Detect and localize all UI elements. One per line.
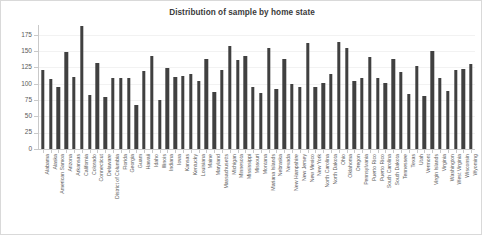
- bar[interactable]: [329, 74, 332, 150]
- bar[interactable]: [80, 26, 83, 150]
- bar[interactable]: [321, 83, 324, 150]
- bar[interactable]: [360, 78, 363, 150]
- bar[interactable]: [454, 70, 457, 150]
- bar[interactable]: [41, 70, 44, 150]
- x-axis-tick: [385, 150, 386, 153]
- bar[interactable]: [220, 70, 223, 150]
- bar[interactable]: [72, 77, 75, 150]
- bar[interactable]: [415, 66, 418, 150]
- bar-slot: [171, 25, 179, 150]
- bar[interactable]: [275, 89, 278, 150]
- x-axis-tick: [339, 150, 340, 153]
- bar-slot: [125, 25, 133, 150]
- x-axis-tick: [160, 150, 161, 153]
- bar-slot: [249, 25, 257, 150]
- y-axis-tick-label: 150: [2, 48, 32, 55]
- bar[interactable]: [384, 83, 387, 150]
- bar[interactable]: [212, 92, 215, 150]
- x-axis-tick: [463, 150, 464, 153]
- bar-slot: [389, 25, 397, 150]
- bar[interactable]: [189, 74, 192, 150]
- bar[interactable]: [181, 76, 184, 150]
- bar[interactable]: [228, 46, 231, 150]
- y-axis-tick: [34, 149, 38, 150]
- bar[interactable]: [314, 87, 317, 150]
- x-axis-tick: [432, 150, 433, 153]
- bar[interactable]: [57, 87, 60, 150]
- bar[interactable]: [306, 43, 309, 150]
- bar[interactable]: [267, 48, 270, 150]
- bar[interactable]: [150, 56, 153, 150]
- bar[interactable]: [298, 87, 301, 150]
- bar[interactable]: [135, 105, 138, 150]
- bar-slot: [327, 25, 335, 150]
- bar[interactable]: [283, 59, 286, 150]
- bar[interactable]: [174, 77, 177, 150]
- bar[interactable]: [96, 63, 99, 150]
- bar[interactable]: [259, 93, 262, 150]
- bar[interactable]: [103, 97, 106, 150]
- bar[interactable]: [111, 78, 114, 150]
- bar[interactable]: [376, 78, 379, 150]
- y-axis-tick-label: 125: [2, 64, 32, 71]
- x-axis-tick-label: New Jersey: [302, 154, 307, 181]
- x-axis-tick-label: Mississippi: [247, 154, 252, 179]
- bar[interactable]: [392, 59, 395, 150]
- bar[interactable]: [244, 56, 247, 150]
- bar[interactable]: [127, 78, 130, 150]
- x-axis-tick-label: Connecticut: [99, 154, 104, 181]
- bar[interactable]: [142, 71, 145, 150]
- x-axis-tick-label: Ohio: [341, 154, 346, 165]
- bar-slot: [109, 25, 117, 150]
- bar[interactable]: [345, 48, 348, 150]
- bar[interactable]: [353, 81, 356, 150]
- bar-slot: [265, 25, 273, 150]
- x-axis-tick: [261, 150, 262, 153]
- bar[interactable]: [251, 87, 254, 150]
- x-axis-tick-label: Alabama: [45, 154, 50, 174]
- x-axis-tick: [331, 150, 332, 153]
- x-axis-tick-label: Nebraska: [278, 154, 283, 176]
- bar[interactable]: [337, 42, 340, 150]
- bar[interactable]: [469, 64, 472, 150]
- y-axis-tick: [34, 116, 38, 117]
- x-axis-tick: [347, 150, 348, 153]
- bar[interactable]: [205, 59, 208, 150]
- bar[interactable]: [65, 52, 68, 150]
- bar-slot: [350, 25, 358, 150]
- bar[interactable]: [438, 78, 441, 150]
- bar[interactable]: [368, 57, 371, 150]
- x-axis-tick: [199, 150, 200, 153]
- x-axis-tick-label: Delaware: [107, 154, 112, 176]
- y-axis-tick-label: 50: [2, 113, 32, 120]
- x-axis-tick: [292, 150, 293, 153]
- bar[interactable]: [49, 79, 52, 150]
- x-axis-tick: [74, 150, 75, 153]
- x-axis-tick-label: Arizona: [68, 154, 73, 172]
- bar[interactable]: [430, 51, 433, 150]
- bar[interactable]: [399, 72, 402, 150]
- x-axis-tick: [51, 150, 52, 153]
- bar[interactable]: [197, 81, 200, 150]
- x-axis-tick: [214, 150, 215, 153]
- bar[interactable]: [166, 68, 169, 150]
- bar[interactable]: [446, 91, 449, 150]
- bar[interactable]: [290, 84, 293, 150]
- x-axis-tick-label: Vermont: [426, 154, 431, 173]
- bar[interactable]: [88, 95, 91, 150]
- x-axis-tick: [230, 150, 231, 153]
- bar[interactable]: [236, 60, 239, 150]
- y-axis-tick: [34, 133, 38, 134]
- bar-slot: [164, 25, 172, 150]
- x-axis-tick: [105, 150, 106, 153]
- bar[interactable]: [423, 96, 426, 150]
- bar[interactable]: [119, 78, 122, 150]
- bar-slot: [304, 25, 312, 150]
- x-axis-tick-label: Michigan: [232, 154, 237, 175]
- bar[interactable]: [158, 100, 161, 150]
- x-axis-tick-label: South Dakota: [395, 154, 400, 185]
- bar[interactable]: [462, 69, 465, 150]
- bar-slot: [280, 25, 288, 150]
- bar[interactable]: [407, 94, 410, 150]
- bar-slot: [312, 25, 320, 150]
